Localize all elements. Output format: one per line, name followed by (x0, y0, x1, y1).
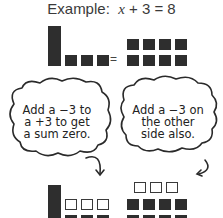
positive-unit-tile (65, 215, 77, 218)
positive-unit-tile (175, 199, 187, 210)
positive-unit-tile (81, 215, 93, 218)
positive-unit-tile (143, 215, 155, 218)
right-bubble-text: Add a −3 on the other side also. (122, 104, 214, 140)
algebra-tile-diagram: Example: x + 3 = 8 = Add a −3 to a +3 t (0, 0, 223, 218)
negative-unit-tile (65, 199, 77, 210)
negative-unit-tile (97, 199, 109, 210)
positive-unit-tile (143, 199, 155, 210)
left-bubble-text: Add a −3 to a +3 to get a sum zero. (14, 104, 100, 140)
positive-unit-tile (97, 215, 109, 218)
negative-unit-tile (81, 199, 93, 210)
x-bar-tile (48, 185, 61, 218)
right-arrow (199, 160, 208, 174)
positive-unit-tile (159, 199, 171, 210)
positive-unit-tile (127, 215, 139, 218)
positive-unit-tile (175, 215, 187, 218)
negative-unit-tile (134, 182, 146, 193)
positive-unit-tile (127, 199, 139, 210)
negative-unit-tile (166, 182, 178, 193)
positive-unit-tile (159, 215, 171, 218)
negative-unit-tile (150, 182, 162, 193)
